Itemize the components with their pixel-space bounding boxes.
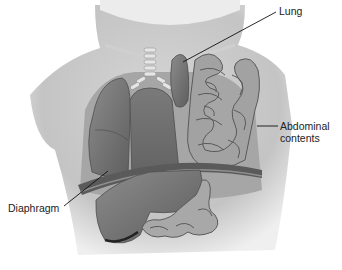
diagram-canvas: Lung Abdominal contents Diaphragm (0, 0, 342, 270)
abdominal-contents-label-line2: contents (280, 133, 320, 144)
lung-label: Lung (279, 6, 302, 17)
abdominal-contents-label-line1: Abdominal (280, 121, 330, 132)
left-lung (171, 54, 189, 107)
diaphragm-label: Diaphragm (8, 203, 59, 214)
